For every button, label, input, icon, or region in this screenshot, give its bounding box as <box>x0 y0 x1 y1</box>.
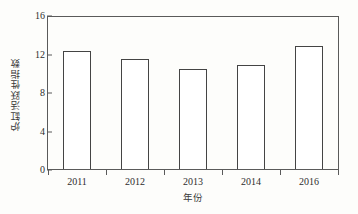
x-tick-mark <box>222 170 223 175</box>
x-tick-mark <box>106 170 107 175</box>
x-tick-label-2014: 2014 <box>222 177 280 187</box>
x-tick-label-2012: 2012 <box>106 177 164 187</box>
bar-slot <box>106 17 164 169</box>
bar-2016[interactable] <box>295 46 323 170</box>
bar-slot <box>48 17 106 169</box>
bar-slot <box>280 17 338 169</box>
x-tick-mark <box>338 170 339 175</box>
bar-2012[interactable] <box>121 59 149 169</box>
bar-slot <box>222 17 280 169</box>
y-tick-label-12: 12 <box>19 50 45 60</box>
y-tick-label-0: 0 <box>19 165 45 175</box>
bar-slot <box>164 17 222 169</box>
bar-chart-figure: 炉缸活跃性指数 16 12 8 4 0 2011 2012 2013 2014 … <box>0 0 358 214</box>
x-tick-label-2013: 2013 <box>164 177 222 187</box>
x-tick-mark <box>48 170 49 175</box>
x-tick-mark <box>164 170 165 175</box>
y-tick-label-4: 4 <box>19 127 45 137</box>
x-axis-tick-labels: 2011 2012 2013 2014 2016 <box>48 177 338 187</box>
x-tick-label-2016: 2016 <box>280 177 338 187</box>
bar-2014[interactable] <box>237 65 265 170</box>
y-tick-label-8: 8 <box>19 88 45 98</box>
bars-layer <box>48 17 338 169</box>
y-tick-label-16: 16 <box>19 11 45 21</box>
x-axis-title: 年份 <box>48 193 338 203</box>
x-tick-label-2011: 2011 <box>48 177 106 187</box>
bar-2011[interactable] <box>63 51 91 169</box>
x-tick-mark <box>280 170 281 175</box>
bar-2013[interactable] <box>179 69 207 169</box>
